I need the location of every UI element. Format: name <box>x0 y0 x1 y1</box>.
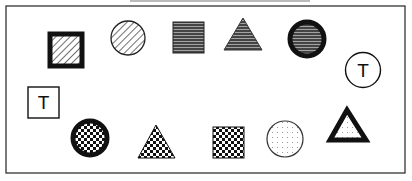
checker-circle-thick-border <box>73 121 107 155</box>
t-circle-label: T <box>357 60 369 81</box>
t-circle: T <box>346 53 381 88</box>
shape-figure: T T <box>0 0 412 181</box>
figure-frame <box>6 6 405 173</box>
striped-circle-thick-border <box>290 22 324 56</box>
dotted-circle <box>267 121 303 157</box>
t-square: T <box>28 87 59 118</box>
striped-square <box>173 22 204 53</box>
checker-square <box>213 127 244 158</box>
cutoff-caption <box>130 0 310 2</box>
hatched-square-thick-border <box>50 34 82 66</box>
t-square-label: T <box>38 92 50 113</box>
hatched-circle <box>111 21 145 55</box>
